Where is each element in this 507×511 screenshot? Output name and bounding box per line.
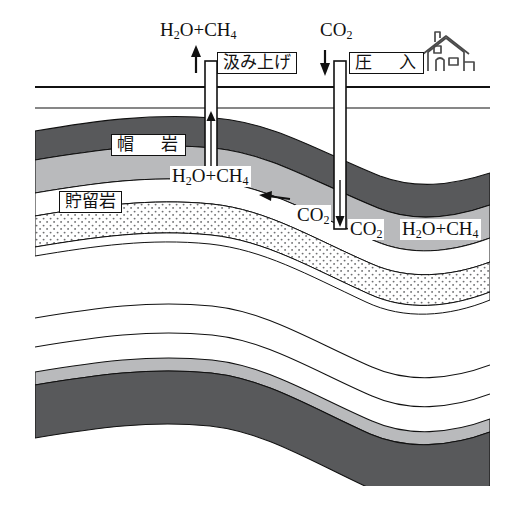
figure-canvas: H2O+CH4 汲み上げ CO2 圧 入 帽 岩 貯留岩 H2O+CH4 CO2… bbox=[0, 0, 507, 511]
co2-plume-left-formula: CO2 bbox=[295, 205, 331, 226]
injection-well[interactable] bbox=[334, 61, 346, 229]
injection-well-top-formula: CO2 bbox=[320, 20, 352, 41]
reservoir-gas-right-formula: H2O+CH4 bbox=[400, 219, 481, 240]
house-icon bbox=[423, 32, 474, 71]
injection-well-surface-arrow bbox=[320, 50, 330, 76]
co2-plume-right-formula: CO2 bbox=[348, 219, 384, 240]
geological-cross-section-svg bbox=[0, 0, 507, 511]
reservoir-gas-left-formula: H2O+CH4 bbox=[170, 166, 251, 187]
production-well-top-formula: H2O+CH4 bbox=[160, 20, 237, 41]
stratum-overburden bbox=[35, 87, 490, 113]
stratum-label-cap-rock: 帽 岩 bbox=[111, 134, 186, 156]
stratum-label-reservoir-rock: 貯留岩 bbox=[59, 191, 122, 213]
production-well-surface-arrow bbox=[191, 45, 201, 73]
injection-well-label: 圧 入 bbox=[349, 52, 424, 74]
production-well-label: 汲み上げ bbox=[217, 52, 297, 74]
